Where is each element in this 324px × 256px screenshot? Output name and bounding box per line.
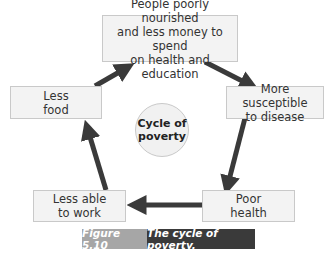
figure-title: The cycle of poverty. [147,229,255,249]
node-poorly-nourished: People poorly nourished and less money t… [102,15,238,62]
arrow-less-able-to-less-food [87,127,106,190]
arrow-right-to-poor-health [227,118,245,188]
node-susceptible-to-disease: More susceptible to disease [226,86,324,119]
center-cycle-label: Cycle of poverty [135,103,189,157]
node-less-able-to-work: Less able to work [33,190,126,222]
node-less-food: Less food [10,86,102,119]
figure-caption: Figure 5.10 The cycle of poverty. [82,229,255,249]
figure-number: Figure 5.10 [82,229,147,249]
node-poor-health: Poor health [202,190,295,222]
